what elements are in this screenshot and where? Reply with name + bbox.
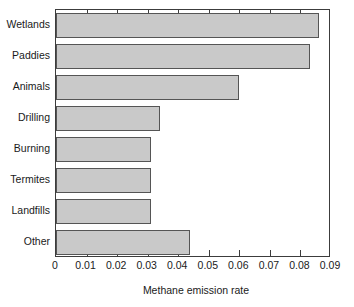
x-tick-label: 0.04 <box>167 260 187 271</box>
x-axis-title: Methane emission rate <box>0 284 354 296</box>
bar-row <box>56 168 329 193</box>
y-axis-label-landfills: Landfills <box>0 205 50 216</box>
bar <box>56 13 319 38</box>
y-axis-label-burning: Burning <box>0 143 50 154</box>
bar <box>56 168 151 193</box>
bar-row <box>56 137 329 162</box>
y-axis-label-paddies: Paddies <box>0 50 50 61</box>
bar <box>56 106 160 131</box>
y-axis-label-animals: Animals <box>0 81 50 92</box>
bar-row <box>56 230 329 255</box>
bar-row <box>56 13 329 38</box>
bar <box>56 230 190 255</box>
plot-area <box>55 9 330 257</box>
y-axis-label-drilling: Drilling <box>0 112 50 123</box>
x-tick-label: 0.03 <box>136 260 156 271</box>
x-tick-label: 0.02 <box>106 260 126 271</box>
x-tick-label: 0.07 <box>259 260 279 271</box>
x-axis-title-text: Methane emission rate <box>105 284 249 296</box>
bar <box>56 75 239 100</box>
x-tick-label: 0.06 <box>228 260 248 271</box>
y-axis-label-wetlands: Wetlands <box>0 19 50 30</box>
x-tick-label: 0.01 <box>75 260 95 271</box>
bar-row <box>56 44 329 69</box>
x-tick-label: 0.09 <box>320 260 340 271</box>
x-axis-tick-labels: 00.010.020.030.040.050.060.070.080.09 <box>0 260 354 276</box>
bar-row <box>56 106 329 131</box>
bar <box>56 44 310 69</box>
methane-emission-bar-chart: WetlandsPaddiesAnimalsDrillingBurningTer… <box>0 0 354 307</box>
bar-row <box>56 75 329 100</box>
y-axis-label-termites: Termites <box>0 174 50 185</box>
x-tick-label: 0.05 <box>198 260 218 271</box>
bars-layer <box>56 10 329 256</box>
bar <box>56 199 151 224</box>
y-axis-label-other: Other <box>0 236 50 247</box>
x-tick-label: 0.08 <box>289 260 309 271</box>
bar <box>56 137 151 162</box>
bar-row <box>56 199 329 224</box>
x-tick-label: 0 <box>52 260 58 271</box>
